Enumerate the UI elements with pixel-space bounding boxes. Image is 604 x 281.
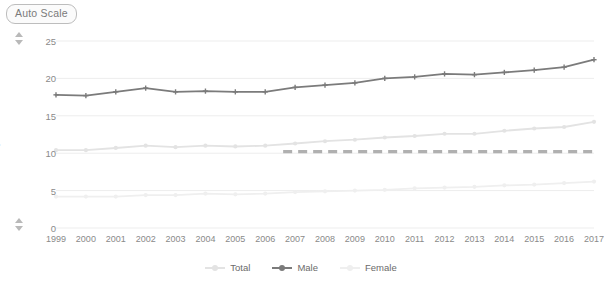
y-axis-tick-15: 15 [30,110,56,121]
data-point-female[interactable] [532,183,536,187]
x-axis-tick-2015: 2015 [524,234,544,244]
x-axis-tick-1999: 1999 [46,234,66,244]
x-axis-tick-2013: 2013 [464,234,484,244]
x-axis-tick-2006: 2006 [255,234,275,244]
data-point-male[interactable] [143,86,148,91]
data-point-female[interactable] [323,189,327,193]
data-point-male[interactable] [322,83,327,88]
data-point-total[interactable] [84,148,88,152]
data-point-total[interactable] [532,126,536,130]
y-axis-tick-25: 25 [30,36,56,47]
data-point-total[interactable] [173,145,177,149]
x-axis-tick-2017: 2017 [584,234,604,244]
data-point-male[interactable] [532,68,537,73]
data-point-total[interactable] [502,129,506,133]
data-point-male[interactable] [233,89,238,94]
legend-label: Male [297,262,318,273]
x-axis-tick-2003: 2003 [166,234,186,244]
data-point-total[interactable] [562,125,566,129]
data-point-male[interactable] [263,89,268,94]
series-line-male[interactable] [56,60,594,96]
data-point-total[interactable] [203,144,207,148]
data-point-female[interactable] [413,186,417,190]
data-point-female[interactable] [592,180,596,184]
data-point-male[interactable] [562,65,567,70]
data-point-male[interactable] [472,72,477,77]
data-point-total[interactable] [413,134,417,138]
data-point-male[interactable] [113,89,118,94]
legend-label: Female [365,262,397,273]
data-point-total[interactable] [263,144,267,148]
data-point-male[interactable] [203,89,208,94]
data-point-male[interactable] [83,93,88,98]
data-point-female[interactable] [114,194,118,198]
data-point-female[interactable] [502,183,506,187]
y-axis-tick-5: 5 [30,185,56,196]
data-point-total[interactable] [353,138,357,142]
data-point-male[interactable] [442,71,447,76]
data-point-male[interactable] [591,57,596,62]
data-point-female[interactable] [562,181,566,185]
data-point-male[interactable] [382,76,387,81]
data-point-female[interactable] [472,185,476,189]
x-axis-tick-2002: 2002 [136,234,156,244]
data-point-female[interactable] [144,193,148,197]
legend-item-female[interactable]: Female [340,262,397,273]
data-point-male[interactable] [173,89,178,94]
x-axis-tick-2011: 2011 [405,234,424,244]
x-axis-tick-2008: 2008 [315,234,335,244]
data-point-female[interactable] [353,189,357,193]
legend-item-male[interactable]: Male [272,262,318,273]
series-line-female[interactable] [56,182,594,197]
data-point-male[interactable] [502,70,507,75]
legend-swatch-total [205,264,225,272]
data-point-total[interactable] [383,135,387,139]
x-axis-tick-2012: 2012 [435,234,455,244]
legend-swatch-female [340,264,360,272]
x-axis-tick-2000: 2000 [76,234,96,244]
data-point-total[interactable] [233,144,237,148]
data-point-total[interactable] [114,146,118,150]
data-point-female[interactable] [173,193,177,197]
x-axis-tick-2009: 2009 [345,234,365,244]
x-axis-tick-2016: 2016 [554,234,574,244]
x-axis-tick-2001: 2001 [106,234,126,244]
data-point-male[interactable] [352,80,357,85]
data-point-female[interactable] [233,192,237,196]
data-point-total[interactable] [323,139,327,143]
data-point-female[interactable] [203,191,207,195]
x-axis-tick-2007: 2007 [285,234,305,244]
data-point-female[interactable] [442,186,446,190]
data-point-total[interactable] [442,132,446,136]
x-axis-tick-2005: 2005 [225,234,245,244]
legend-swatch-male [272,264,292,272]
legend-item-total[interactable]: Total [205,262,250,273]
data-point-male[interactable] [293,85,298,90]
y-axis-tick-20: 20 [30,73,56,84]
data-point-total[interactable] [293,141,297,145]
data-point-female[interactable] [293,190,297,194]
data-point-total[interactable] [144,144,148,148]
y-axis-tick-10: 10 [30,148,56,159]
data-point-total[interactable] [592,120,596,124]
chart-legend: TotalMaleFemale [0,262,602,273]
data-point-female[interactable] [383,188,387,192]
legend-label: Total [230,262,250,273]
data-point-female[interactable] [263,191,267,195]
x-axis-tick-2004: 2004 [195,234,215,244]
data-point-female[interactable] [84,194,88,198]
y-axis-tick-0: 0 [30,223,56,234]
x-axis-tick-2010: 2010 [375,234,395,244]
x-axis-tick-2014: 2014 [494,234,514,244]
data-point-total[interactable] [472,132,476,136]
series-line-total[interactable] [56,122,594,150]
